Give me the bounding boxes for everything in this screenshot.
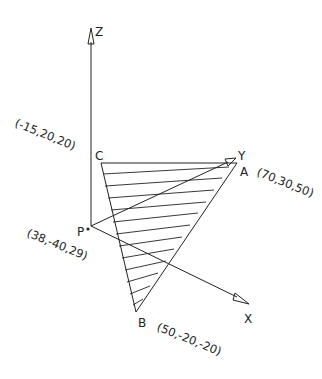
x-axis: X [91,226,252,326]
point-b-coords: (50,-20,-20) [155,320,224,359]
z-axis-label: Z [95,25,103,39]
point-b-label: B [138,316,146,330]
point-p-label: P [77,225,84,239]
point-c: C (-15,20,20) [13,116,104,163]
point-a: A (70,30,50) [240,165,316,201]
z-arrow-icon [88,28,94,44]
z-axis: Z [88,25,103,226]
y-arrow-icon [225,158,236,166]
point-p: P (38,-40,29) [25,225,90,263]
point-c-label: C [95,149,103,163]
y-axis-label: Y [237,149,246,163]
triangle-abc [101,163,237,312]
point-c-coords: (-15,20,20) [13,116,78,153]
x-axis-label: X [244,312,252,326]
point-a-coords: (70,30,50) [255,165,316,201]
point-a-label: A [240,165,249,179]
y-axis: Y [91,149,246,226]
x-arrow-icon [233,293,249,304]
coordinate-diagram: Z Y X P (38,-40,29) C (-15,20,2 [0,0,322,379]
point-dot-icon [86,227,89,230]
point-b: B (50,-20,-20) [138,316,224,358]
